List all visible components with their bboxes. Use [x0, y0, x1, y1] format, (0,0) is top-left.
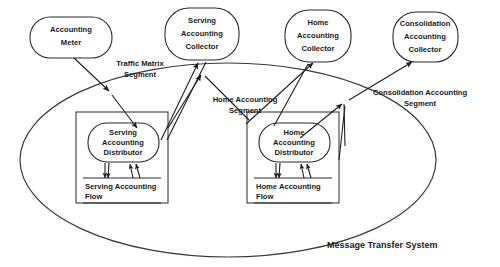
- connector-home-flow-to-distributor-b: [307, 164, 311, 178]
- consolidation-accounting-segment-line2: Segment: [404, 99, 437, 108]
- object-home-accounting-flow[interactable]: Home Accounting Flow: [254, 178, 332, 203]
- home-accounting-segment-line2: Segment: [229, 106, 262, 115]
- home-accounting-collector-label-line2: Accounting: [297, 31, 339, 40]
- node-home-accounting-distributor[interactable]: Home Accounting Distributor: [259, 123, 330, 162]
- connector-serving-flow-to-distributor-a: [130, 164, 133, 178]
- message-transfer-system-label: Message Transfer System: [327, 240, 438, 250]
- consolidation-accounting-segment-line1: Consolidation Accounting: [373, 88, 468, 97]
- home-accounting-distributor-line2: Accounting: [273, 138, 315, 147]
- connector-serving-to-home-segment-point: [168, 75, 201, 128]
- serving-accounting-distributor-line3: Distributor: [104, 148, 143, 157]
- connector-home-distributor-to-home-collector: [274, 64, 308, 126]
- serving-accounting-collector-label-line3: Collector: [186, 42, 219, 51]
- traffic-matrix-segment-line2: Segment: [124, 70, 157, 79]
- home-accounting-distributor-line1: Home: [283, 128, 304, 137]
- home-flow-line2: Flow: [256, 192, 273, 201]
- consolidation-accounting-collector-label-line2: Accounting: [404, 32, 446, 41]
- serving-flow-line1: Serving Accounting: [85, 182, 157, 191]
- connector-serving-flow-to-distributor-b: [136, 164, 140, 178]
- node-serving-accounting-collector[interactable]: Serving Accounting Collector: [165, 8, 239, 60]
- serving-accounting-distributor-line2: Accounting: [102, 138, 144, 147]
- traffic-matrix-segment-line1: Traffic Matrix: [116, 59, 164, 68]
- home-accounting-segment-line1: Home Accounting: [213, 95, 278, 104]
- node-accounting-meter[interactable]: Accounting Meter: [30, 17, 112, 58]
- connector-home-distributor-to-flow-b: [279, 163, 280, 178]
- home-accounting-distributor-line3: Distributor: [275, 148, 314, 157]
- serving-accounting-distributor-line1: Serving: [109, 128, 137, 137]
- diagram-canvas: Accounting Meter Serving Accounting Coll…: [0, 0, 500, 267]
- node-consolidation-accounting-collector[interactable]: Consolidation Accounting Collector: [393, 12, 458, 62]
- node-serving-accounting-distributor[interactable]: Serving Accounting Distributor: [88, 123, 159, 162]
- accounting-meter-label-line2: Meter: [61, 38, 81, 47]
- serving-flow-line2: Flow: [85, 192, 102, 201]
- connector-serving-distributor-to-flow-b: [108, 163, 109, 178]
- connector-home-group-to-consolidation-point: [300, 104, 342, 138]
- serving-accounting-collector-label-line1: Serving: [188, 16, 216, 25]
- connector-serving-flow-to-serving-collector: [167, 62, 206, 140]
- serving-accounting-collector-label-line2: Accounting: [181, 29, 223, 38]
- connector-home-flow-to-distributor-a: [301, 164, 304, 178]
- diagram-svg: Accounting Meter Serving Accounting Coll…: [0, 0, 500, 267]
- consolidation-accounting-collector-label-line1: Consolidation: [400, 19, 451, 28]
- connector-serving-distributor-to-serving-collector: [161, 63, 198, 140]
- home-flow-line1: Home Accounting: [256, 182, 321, 191]
- consolidation-accounting-collector-label-line3: Collector: [409, 45, 442, 54]
- connector-meter-to-boundary: [74, 58, 109, 91]
- accounting-meter-label-line1: Accounting: [50, 25, 92, 34]
- node-home-accounting-collector[interactable]: Home Accounting Collector: [285, 10, 351, 62]
- home-accounting-collector-label-line1: Home: [307, 18, 328, 27]
- home-accounting-collector-label-line3: Collector: [302, 44, 335, 53]
- object-serving-accounting-flow[interactable]: Serving Accounting Flow: [83, 178, 161, 203]
